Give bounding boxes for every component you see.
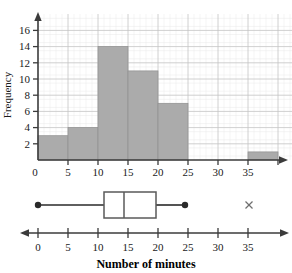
bar-20-25 (158, 103, 188, 160)
figure-svg: 0 5 10 15 20 25 30 35 2 4 6 8 10 12 14 1… (0, 0, 292, 273)
x-tick-label-5: 25 (183, 166, 195, 178)
nl-tick-label-6: 30 (213, 241, 225, 253)
y-tick-label-2: 6 (25, 105, 31, 117)
nl-tick-label-2: 10 (93, 241, 105, 253)
x-tick-label-0: 0 (32, 166, 38, 178)
histogram-x-tick-labels: 0 5 10 15 20 25 30 35 (32, 166, 254, 178)
y-tick-label-3: 8 (25, 89, 31, 101)
y-tick-label-5: 12 (19, 57, 30, 69)
x-tick-label-6: 30 (213, 166, 225, 178)
max-dot (182, 202, 188, 208)
number-line-tick-labels: 0 5 10 15 20 25 30 35 (35, 241, 254, 253)
y-tick-label-0: 2 (25, 138, 31, 150)
boxplot-number-line: 0 5 10 15 20 25 30 35 (20, 228, 289, 253)
boxplot (35, 192, 253, 218)
box-rect (104, 192, 156, 218)
x-tick-label-4: 20 (153, 166, 165, 178)
y-axis-title: Frequency (1, 71, 13, 118)
bar-0-5 (38, 136, 68, 160)
x-tick-label-3: 15 (123, 166, 135, 178)
y-tick-label-7: 16 (19, 24, 31, 36)
nl-tick-label-4: 20 (153, 241, 165, 253)
bar-15-20 (128, 71, 158, 160)
y-tick-label-1: 4 (25, 121, 31, 133)
x-axis-title: Number of minutes (96, 257, 195, 271)
outlier-x-marker (246, 202, 253, 209)
x-tick-label-7: 35 (243, 166, 255, 178)
number-line-right-arrow (280, 229, 289, 236)
x-axis-arrow (279, 156, 288, 163)
nl-tick-label-7: 35 (243, 241, 255, 253)
statistics-figure: 0 5 10 15 20 25 30 35 2 4 6 8 10 12 14 1… (0, 0, 292, 273)
nl-tick-label-3: 15 (123, 241, 135, 253)
x-tick-label-1: 5 (65, 166, 71, 178)
number-line-left-arrow (20, 229, 29, 236)
bar-5-10 (68, 128, 98, 160)
y-tick-label-6: 14 (19, 40, 31, 52)
nl-tick-label-5: 25 (183, 241, 195, 253)
nl-tick-label-1: 5 (65, 241, 71, 253)
x-tick-label-2: 10 (93, 166, 105, 178)
nl-tick-label-0: 0 (35, 241, 41, 253)
histogram-y-tick-labels: 2 4 6 8 10 12 14 16 (19, 24, 31, 149)
y-axis-arrow (34, 12, 41, 21)
min-dot (35, 202, 41, 208)
bar-30-35 (248, 152, 278, 160)
y-tick-label-4: 10 (19, 73, 31, 85)
bar-10-15 (98, 47, 128, 160)
